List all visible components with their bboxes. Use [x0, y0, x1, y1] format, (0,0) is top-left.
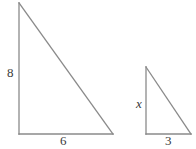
- small-triangle: [146, 67, 191, 134]
- large-triangle-vertical-label: 8: [7, 66, 14, 79]
- large-triangle-base-label: 6: [60, 134, 67, 147]
- small-triangle-hypotenuse: [146, 67, 191, 134]
- triangles-canvas: [0, 0, 196, 149]
- large-triangle: [19, 3, 113, 134]
- small-triangle-vertical-label: x: [136, 97, 142, 110]
- geometry-figure: 8 6 x 3: [0, 0, 196, 149]
- small-triangle-base-label: 3: [165, 134, 172, 147]
- large-triangle-hypotenuse: [19, 3, 113, 134]
